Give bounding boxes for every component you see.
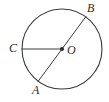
point-label-a: A	[32, 84, 39, 96]
point-label-b: B	[87, 2, 94, 14]
circle-geometry-figure: B C O A	[0, 0, 109, 102]
point-label-o: O	[67, 44, 76, 56]
point-label-c: C	[9, 42, 17, 54]
center-point-dot	[60, 47, 64, 51]
